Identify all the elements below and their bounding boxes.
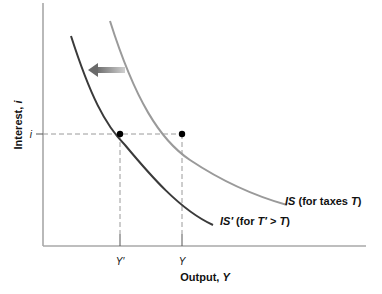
y-tick-i: i xyxy=(30,129,33,140)
is-curve xyxy=(110,21,287,205)
is-prime-curve xyxy=(71,36,213,225)
y-axis-label: Interest, i xyxy=(12,100,24,150)
equilibrium-point-is xyxy=(179,131,185,137)
x-tick-yprime: Y′ xyxy=(116,256,126,267)
is-curve-label: IS (for taxes T) xyxy=(285,195,362,207)
equilibrium-point-is-prime xyxy=(117,131,123,137)
x-axis-label: Output, Y xyxy=(180,271,231,283)
is-prime-curve-label: IS′ (for T′ > T) xyxy=(220,215,290,227)
shift-left-arrow-icon xyxy=(88,63,125,77)
is-curve-chart: Interest, i i Y′ Y Output, Y IS (for tax… xyxy=(0,0,382,294)
x-tick-y: Y xyxy=(179,256,187,267)
